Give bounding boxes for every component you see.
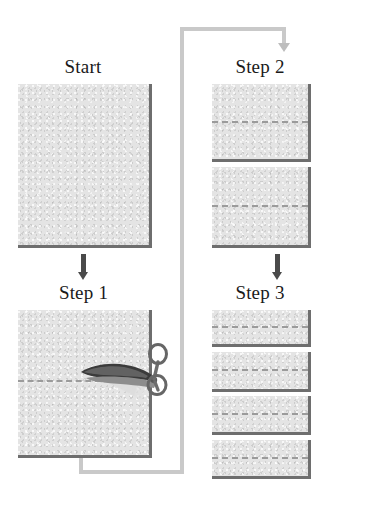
loop-arrow-head — [278, 43, 290, 52]
loop-segment-riser — [79, 455, 83, 474]
step-1-cut-line — [18, 380, 149, 382]
panel-label-step-3: Step 3 — [212, 283, 308, 302]
loop-segment-top — [180, 27, 286, 31]
step-2-fold-line-1 — [212, 121, 308, 123]
step-3-fold-line-2 — [212, 369, 308, 371]
step-3-fold-line-4 — [212, 457, 308, 459]
step-3-fold-line-3 — [212, 413, 308, 415]
step-1-sheet — [18, 310, 149, 455]
arrow-down-icon-step2-to-step3 — [272, 254, 282, 280]
instruction-diagram: Start Step 1 Step 2 — [0, 0, 369, 511]
panel-label-step-1: Step 1 — [18, 283, 149, 302]
loop-segment-vertical — [180, 27, 184, 474]
panel-label-step-2: Step 2 — [212, 57, 308, 76]
step-2-fold-line-2 — [212, 205, 308, 207]
loop-segment-descent — [282, 27, 286, 44]
arrow-down-icon-start-to-step1 — [78, 254, 88, 280]
step-3-fold-line-1 — [212, 326, 308, 328]
loop-segment-bottom — [79, 470, 184, 474]
panel-label-start: Start — [18, 57, 148, 76]
start-sheet — [18, 84, 149, 245]
